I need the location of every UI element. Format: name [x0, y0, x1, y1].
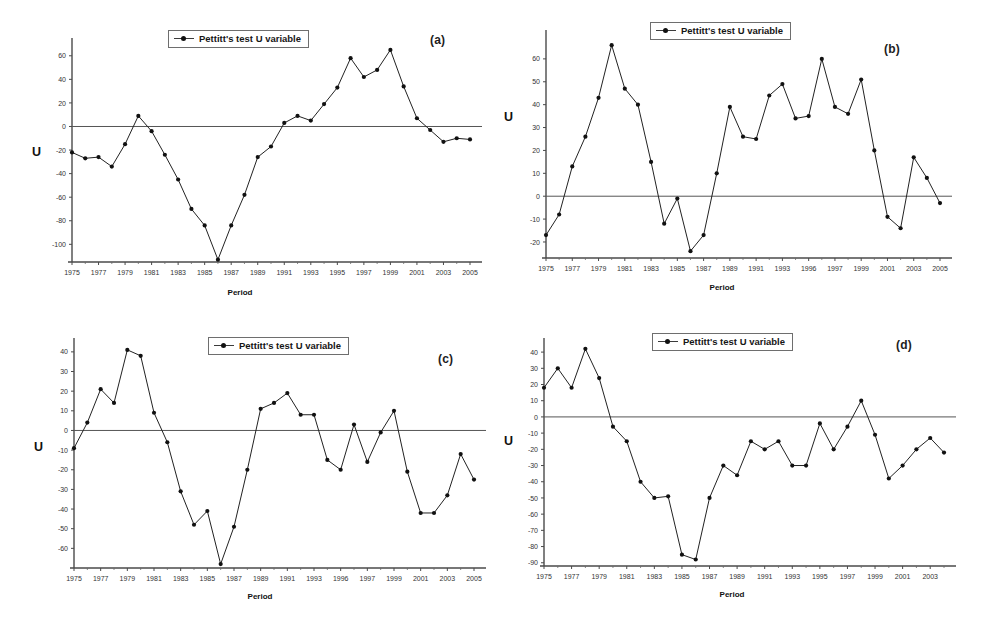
plot-area-c: 403020100-10-20-30-40-50-601975197719791…	[0, 310, 492, 620]
svg-text:1996: 1996	[333, 575, 349, 582]
svg-text:1977: 1977	[91, 269, 107, 276]
svg-text:2005: 2005	[932, 265, 948, 272]
svg-text:-20: -20	[56, 147, 66, 154]
panel-b: Pettitt's test U variable (b) U Period 6…	[492, 0, 984, 310]
svg-text:1985: 1985	[674, 573, 690, 580]
svg-text:20: 20	[530, 381, 538, 388]
svg-text:2001: 2001	[895, 573, 911, 580]
svg-text:40: 40	[60, 348, 68, 355]
svg-text:1987: 1987	[226, 575, 242, 582]
svg-text:2001: 2001	[880, 265, 896, 272]
svg-text:2003: 2003	[906, 265, 922, 272]
svg-text:-40: -40	[58, 506, 68, 513]
svg-text:1997: 1997	[360, 575, 376, 582]
svg-text:20: 20	[58, 100, 66, 107]
svg-text:40: 40	[530, 349, 538, 356]
svg-text:40: 40	[532, 101, 540, 108]
svg-text:-10: -10	[530, 216, 540, 223]
svg-text:1991: 1991	[276, 269, 292, 276]
svg-text:40: 40	[58, 76, 66, 83]
svg-text:1981: 1981	[619, 573, 635, 580]
svg-text:1993: 1993	[306, 575, 322, 582]
svg-text:-40: -40	[56, 170, 66, 177]
svg-text:1999: 1999	[867, 573, 883, 580]
svg-text:2005: 2005	[466, 575, 482, 582]
svg-text:1999: 1999	[383, 269, 399, 276]
svg-text:1979: 1979	[591, 573, 607, 580]
svg-text:1975: 1975	[536, 573, 552, 580]
svg-text:1983: 1983	[173, 575, 189, 582]
svg-text:2001: 2001	[409, 269, 425, 276]
svg-text:60: 60	[532, 55, 540, 62]
svg-text:-50: -50	[528, 495, 538, 502]
svg-text:2001: 2001	[413, 575, 429, 582]
svg-text:1983: 1983	[647, 573, 663, 580]
svg-text:1989: 1989	[722, 265, 738, 272]
svg-text:2003: 2003	[436, 269, 452, 276]
svg-text:2005: 2005	[462, 269, 478, 276]
svg-text:0: 0	[534, 414, 538, 421]
svg-text:-80: -80	[56, 217, 66, 224]
svg-text:-60: -60	[528, 511, 538, 518]
svg-text:0: 0	[64, 427, 68, 434]
svg-text:-50: -50	[58, 525, 68, 532]
svg-text:1993: 1993	[303, 269, 319, 276]
svg-text:50: 50	[532, 78, 540, 85]
svg-text:1977: 1977	[93, 575, 109, 582]
svg-text:1987: 1987	[702, 573, 718, 580]
svg-text:0: 0	[536, 193, 540, 200]
svg-text:1989: 1989	[253, 575, 269, 582]
panel-a: Pettitt's test U variable (a) U Period 6…	[0, 0, 492, 310]
svg-text:1991: 1991	[280, 575, 296, 582]
svg-text:-80: -80	[528, 543, 538, 550]
svg-text:1997: 1997	[827, 265, 843, 272]
svg-text:1987: 1987	[223, 269, 239, 276]
svg-text:10: 10	[530, 397, 538, 404]
pettitt-test-figure-grid: Pettitt's test U variable (a) U Period 6…	[0, 0, 984, 620]
svg-text:1989: 1989	[250, 269, 266, 276]
svg-text:2003: 2003	[440, 575, 456, 582]
svg-text:1985: 1985	[197, 269, 213, 276]
svg-text:-60: -60	[56, 194, 66, 201]
svg-text:10: 10	[532, 170, 540, 177]
svg-text:1979: 1979	[120, 575, 136, 582]
svg-text:1983: 1983	[170, 269, 186, 276]
svg-text:20: 20	[60, 388, 68, 395]
svg-text:1981: 1981	[144, 269, 160, 276]
svg-text:-100: -100	[52, 241, 66, 248]
svg-text:1991: 1991	[757, 573, 773, 580]
svg-text:1977: 1977	[564, 265, 580, 272]
svg-text:1996: 1996	[801, 265, 817, 272]
svg-text:1983: 1983	[643, 265, 659, 272]
svg-text:-60: -60	[58, 545, 68, 552]
svg-text:60: 60	[58, 52, 66, 59]
svg-text:-10: -10	[58, 447, 68, 454]
svg-text:1991: 1991	[748, 265, 764, 272]
svg-text:30: 30	[532, 124, 540, 131]
panel-d: Pettitt's test U variable (d) U Period 4…	[492, 310, 984, 620]
svg-text:1987: 1987	[696, 265, 712, 272]
svg-text:-70: -70	[528, 527, 538, 534]
svg-text:1975: 1975	[538, 265, 554, 272]
plot-area-d: 403020100-10-20-30-40-50-60-70-80-901975…	[492, 310, 984, 620]
svg-text:1979: 1979	[591, 265, 607, 272]
svg-text:-90: -90	[528, 559, 538, 566]
svg-text:1975: 1975	[64, 269, 80, 276]
svg-text:1975: 1975	[66, 575, 82, 582]
svg-text:1985: 1985	[200, 575, 216, 582]
svg-text:1997: 1997	[840, 573, 856, 580]
svg-text:0: 0	[62, 123, 66, 130]
svg-text:-10: -10	[528, 430, 538, 437]
svg-text:1993: 1993	[784, 573, 800, 580]
svg-text:30: 30	[60, 368, 68, 375]
svg-text:-30: -30	[528, 462, 538, 469]
svg-text:1981: 1981	[146, 575, 162, 582]
svg-text:30: 30	[530, 365, 538, 372]
svg-text:-20: -20	[528, 446, 538, 453]
svg-text:1999: 1999	[853, 265, 869, 272]
svg-text:-40: -40	[528, 478, 538, 485]
svg-text:1979: 1979	[117, 269, 133, 276]
svg-text:1977: 1977	[564, 573, 580, 580]
plot-area-a: 6040200-20-40-60-80-10019751977197919811…	[0, 0, 492, 310]
svg-text:1993: 1993	[775, 265, 791, 272]
